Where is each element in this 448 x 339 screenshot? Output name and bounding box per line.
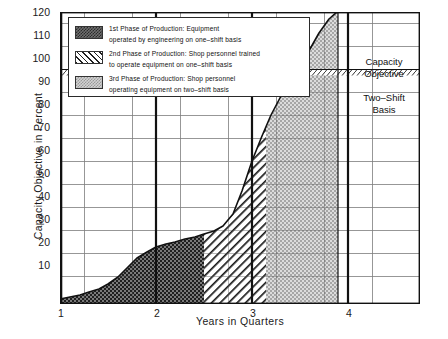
legend-swatch-phase-3 [75, 76, 103, 89]
annotation-capacity-objective-line-1: Capacity [352, 56, 416, 68]
legend-label-phase-1-line-1: 1st Phase of Production: Equipment [109, 24, 307, 35]
legend-label-phase-1-line-2: operated by engineering on one–shift bas… [109, 35, 307, 46]
y-tick-80: 80 [14, 98, 50, 110]
y-tick-40: 40 [14, 190, 50, 202]
legend-label-phase-2-line-2: to operate equipment on one–shift basis [109, 60, 307, 71]
legend-label-phase-3-line-2: operating equipment on two–shift basis [109, 85, 307, 96]
y-tick-100: 100 [14, 52, 50, 64]
legend-swatch-phase-2 [75, 51, 103, 64]
annotation-capacity-objective: Capacity Objective [352, 56, 416, 79]
annotation-two-shift-basis: Two–Shift Basis [352, 92, 416, 115]
legend-label-phase-2: 2nd Phase of Production: Shop personnel … [109, 49, 307, 70]
legend-swatch-phase-1 [75, 26, 103, 39]
chart-figure: Capacity Objective in Percent Years in Q… [0, 0, 448, 339]
legend-label-phase-3: 3rd Phase of Production: Shop personnel … [109, 74, 307, 95]
y-tick-120: 120 [14, 6, 50, 18]
y-tick-60: 60 [14, 144, 50, 156]
y-tick-10: 10 [14, 259, 50, 271]
legend-item-phase-1: 1st Phase of Production: Equipment opera… [75, 25, 307, 49]
x-tick-3: 3 [241, 307, 265, 319]
legend-label-phase-2-line-1: 2nd Phase of Production: Shop personnel … [109, 49, 307, 60]
y-tick-90: 90 [14, 75, 50, 87]
annotation-two-shift-basis-line-2: Basis [352, 104, 416, 116]
legend-label-phase-3-line-1: 3rd Phase of Production: Shop personnel [109, 74, 307, 85]
x-axis-title: Years in Quarters [60, 315, 420, 327]
x-tick-2: 2 [145, 307, 169, 319]
annotation-two-shift-basis-line-1: Two–Shift [352, 92, 416, 104]
x-tick-4: 4 [337, 307, 361, 319]
legend-label-phase-1: 1st Phase of Production: Equipment opera… [109, 24, 307, 45]
x-tick-1: 1 [49, 307, 73, 319]
y-tick-110: 110 [14, 29, 50, 41]
y-tick-70: 70 [14, 121, 50, 133]
legend-item-phase-3: 3rd Phase of Production: Shop personnel … [75, 75, 307, 99]
y-tick-30: 30 [14, 213, 50, 225]
y-tick-20: 20 [14, 236, 50, 248]
chart-legend: 1st Phase of Production: Equipment opera… [68, 17, 310, 97]
annotation-capacity-objective-line-2: Objective [352, 68, 416, 80]
legend-item-phase-2: 2nd Phase of Production: Shop personnel … [75, 50, 307, 74]
y-tick-50: 50 [14, 167, 50, 179]
